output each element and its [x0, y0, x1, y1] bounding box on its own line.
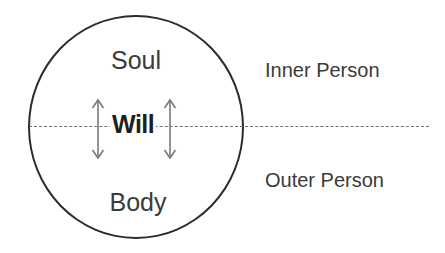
label-soul: Soul	[0, 48, 272, 73]
label-body: Body	[0, 190, 276, 215]
diagram-canvas: Soul Will Body Inner Person Outer Person	[0, 0, 445, 253]
double-headed-arrow-left-icon	[87, 96, 109, 162]
double-headed-arrow-right-icon	[159, 96, 181, 162]
label-will: Will	[110, 112, 156, 137]
label-outer-person: Outer Person	[265, 170, 384, 190]
label-inner-person: Inner Person	[265, 60, 380, 80]
